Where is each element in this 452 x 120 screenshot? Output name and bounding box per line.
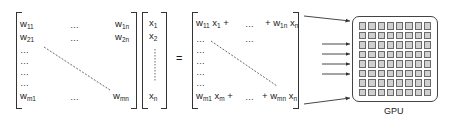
- gpu-core-cell: [396, 32, 403, 40]
- gpu-core-cell: [387, 79, 394, 87]
- gpu-core-cell: [415, 22, 422, 30]
- gpu-core-cell: [405, 32, 412, 40]
- gpu-core-cell: [378, 70, 385, 78]
- gpu-core-cell: [405, 22, 412, 30]
- gpu-core-cell: [387, 70, 394, 78]
- gpu-label: GPU: [384, 106, 404, 116]
- gpu-core-cell: [396, 89, 403, 97]
- w21-label: w21: [20, 32, 34, 45]
- x2-label: x2: [149, 31, 157, 44]
- result-top-ellipsis: …: [245, 20, 254, 29]
- gpu-core-cell: [387, 32, 394, 40]
- gpu-core-cell: [424, 79, 431, 87]
- gpu-core-cell: [415, 41, 422, 49]
- w-row5-ellipsis: …: [20, 68, 29, 77]
- result-row6-ellipsis: …: [196, 79, 205, 88]
- gpu-core-cell: [424, 70, 431, 78]
- gpu-core-cell: [415, 79, 422, 87]
- gpu-core-cell: [387, 51, 394, 59]
- gpu-core-cell: [368, 22, 375, 30]
- gpu-core-cell: [387, 89, 394, 97]
- gpu-core-cell: [424, 60, 431, 68]
- w-row4-ellipsis: …: [20, 57, 29, 66]
- result-bottom-ellipsis: …: [245, 93, 254, 102]
- w2n-label: w2n: [115, 32, 129, 45]
- result-row5-ellipsis: …: [196, 68, 205, 77]
- result-top-right-term: + w1n xn: [265, 18, 298, 31]
- gpu-core-cell: [415, 70, 422, 78]
- gpu-core-cell: [368, 41, 375, 49]
- gpu-core-cell: [396, 41, 403, 49]
- vector-x-right-bracket: [161, 12, 167, 109]
- gpu-core-cell: [424, 32, 431, 40]
- result-row2-left-ellipsis: …: [196, 35, 205, 44]
- vector-x-left-bracket: [142, 12, 148, 109]
- gpu-core-cell: [359, 60, 366, 68]
- gpu-core-cell: [368, 89, 375, 97]
- matrix-w-right-bracket: [131, 12, 137, 109]
- equals-sign: =: [176, 53, 182, 63]
- gpu-core-cell: [378, 89, 385, 97]
- gpu-core-cell: [359, 70, 366, 78]
- result-top-left-term: w11 x1 +: [196, 18, 229, 31]
- gpu-core-cell: [368, 32, 375, 40]
- gpu-core-cell: [415, 51, 422, 59]
- gpu-core-cell: [415, 32, 422, 40]
- result-bottom-right-term: + wmn xn: [262, 91, 297, 104]
- gpu-core-cell: [405, 41, 412, 49]
- gpu-core-cell: [405, 70, 412, 78]
- gpu-core-cell: [378, 32, 385, 40]
- gpu-core-cell: [368, 60, 375, 68]
- gpu-core-cell: [424, 51, 431, 59]
- result-row2-mid-ellipsis: …: [245, 35, 254, 44]
- result-row3-ellipsis: …: [196, 46, 205, 55]
- gpu-core-cell: [359, 32, 366, 40]
- gpu-core-cell: [378, 51, 385, 59]
- gpu-core-cell: [396, 51, 403, 59]
- gpu-core-cell: [424, 41, 431, 49]
- w-row1-ellipsis: …: [70, 21, 79, 30]
- result-diagonal-dashed-line: [211, 41, 277, 86]
- gpu-core-cell: [396, 60, 403, 68]
- gpu-core-cell: [378, 60, 385, 68]
- wmn-label: wmn: [113, 91, 129, 104]
- w-row6-ellipsis: …: [20, 79, 29, 88]
- gpu-core-cell: [387, 60, 394, 68]
- gpu-core-cell: [424, 22, 431, 30]
- w-diagonal-dashed-line: [44, 47, 110, 90]
- xn-label: xn: [149, 91, 157, 104]
- gpu-core-cell: [424, 89, 431, 97]
- gpu-core-cell: [378, 22, 385, 30]
- gpu-core-cell: [405, 89, 412, 97]
- gpu-core-cell: [359, 89, 366, 97]
- gpu-core-cell: [396, 79, 403, 87]
- gpu-core-cell: [415, 60, 422, 68]
- w-row2-ellipsis: …: [70, 34, 79, 43]
- w-row3-ellipsis: …: [20, 46, 29, 55]
- gpu-core-cell: [405, 79, 412, 87]
- gpu-core-cell: [378, 79, 385, 87]
- arrow-bottom-icon: [304, 98, 350, 104]
- gpu-core-cell: [378, 41, 385, 49]
- w-rowm-ellipsis: …: [70, 93, 79, 102]
- gpu-core-cell: [405, 60, 412, 68]
- wm1-label: wm1: [20, 91, 36, 104]
- result-bottom-left-term: wm1 xm +: [196, 91, 233, 104]
- gpu-core-cell: [359, 79, 366, 87]
- gpu-core-cell: [368, 51, 375, 59]
- gpu-core-cell: [387, 41, 394, 49]
- gpu-core-cell: [387, 22, 394, 30]
- gpu-core-cell: [359, 51, 366, 59]
- gpu-core-cell: [405, 51, 412, 59]
- gpu-core-cell: [396, 70, 403, 78]
- gpu-core-cell: [368, 70, 375, 78]
- gpu-core-cell: [368, 79, 375, 87]
- gpu-core-cell: [415, 89, 422, 97]
- gpu-core-cell: [396, 22, 403, 30]
- gpu-core-cell: [359, 22, 366, 30]
- result-row4-ellipsis: …: [196, 57, 205, 66]
- gpu-core-cell: [359, 41, 366, 49]
- gpu-chip: [352, 16, 438, 102]
- arrow-top-icon: [304, 16, 350, 21]
